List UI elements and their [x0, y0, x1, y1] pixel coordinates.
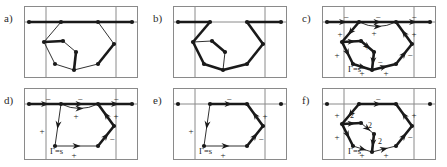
weight-label: 2 — [378, 137, 382, 146]
panel-b — [173, 6, 287, 78]
vertex-dot-v-bot-right — [394, 62, 398, 66]
sign-label: + — [113, 111, 118, 121]
vertex-dot-v-left-end — [27, 102, 31, 106]
sign-label: + — [383, 68, 388, 78]
vertex-dot-v-right-end — [428, 20, 432, 24]
graph-edges — [29, 22, 132, 70]
vertex-dot-v-inner-mid — [372, 50, 376, 54]
edge-v-inner-mid-to-v-bot-mid — [223, 52, 225, 70]
edge-v-mid-left-to-v-inner-left — [193, 41, 212, 42]
vertex-dot-v-inner-left — [210, 39, 214, 43]
vertex-dot-v-top-left — [59, 102, 63, 106]
edge-v-mid-left-to-v-inner-left — [44, 41, 63, 42]
panel-label-c: c) — [302, 12, 311, 24]
panel-label-e: e) — [153, 94, 162, 106]
vertex-dot-v-top-left — [59, 20, 63, 24]
sign-label: + — [334, 110, 339, 120]
vertex-dot-v-bot-right — [245, 144, 249, 148]
vertex-dot-v-mid-right — [261, 42, 265, 46]
vertex-dot-v-left-end — [325, 20, 329, 24]
sign-label: − — [77, 94, 82, 104]
sign-label: − — [226, 94, 231, 104]
edge-v-bot-left-to-v-bot-mid — [204, 64, 223, 70]
panel-f: −+++−++222Γ=s — [322, 88, 436, 160]
sign-label: − — [407, 50, 412, 60]
panel-c: −−−+++++−−++Γ=s — [322, 6, 436, 78]
sign-label: + — [334, 132, 339, 142]
sign-label: + — [411, 29, 416, 39]
sign-label: − — [45, 94, 50, 104]
vertex-dot-v-left-end — [325, 102, 329, 106]
edge-v-inner-left-to-v-inner-mid — [212, 41, 225, 52]
sign-label: + — [371, 28, 376, 38]
weight-label: 2 — [350, 111, 354, 120]
vertex-dot-v-bot-mid — [370, 150, 374, 154]
sign-label: + — [337, 29, 342, 39]
vertex-dot-v-right-end — [130, 102, 134, 106]
panel-label-d: d) — [4, 94, 13, 106]
vertex-dot-v-mid-right — [410, 124, 414, 128]
sign-label: + — [39, 126, 44, 136]
vertex-dot-v-inner-mid — [74, 50, 78, 54]
edge-v-mid-right-to-v-top-right — [247, 22, 263, 44]
edge-v-inner-left-to-v-inner-mid — [63, 41, 76, 52]
vertex-dot-v-inner-left — [359, 39, 363, 43]
graph-vertices — [176, 20, 283, 72]
edge-v-bot-left-to-v-bot-mid — [55, 64, 74, 70]
vertex-dot-v-mid-left — [340, 40, 344, 44]
vertex-dot-v-mid-left — [42, 40, 46, 44]
edge-v-inner-mid-to-v-bot-mid — [74, 52, 76, 70]
vertex-dot-v-bot-right — [96, 144, 100, 148]
sign-label: + — [383, 150, 388, 160]
vertex-dot-v-mid-right — [410, 42, 414, 46]
panel-label-b: b) — [153, 12, 162, 24]
sign-label: − — [377, 57, 382, 67]
sign-label: − — [375, 12, 380, 22]
vertex-dot-v-top-right — [96, 102, 100, 106]
gamma-label: Γ=s — [348, 146, 361, 156]
graph-edges — [203, 101, 263, 149]
sign-label: + — [364, 42, 369, 52]
vertex-dot-v-inner-mid — [372, 132, 376, 136]
gamma-label: Γ=s — [348, 64, 361, 74]
weight-label: 2 — [368, 121, 372, 130]
sign-label: − — [113, 94, 118, 104]
vertex-dot-v-top-left — [357, 102, 361, 106]
vertex-dot-v-bot-right — [394, 144, 398, 148]
graph-vertices — [27, 20, 134, 72]
sign-label: − — [375, 94, 380, 104]
vertex-dot-v-inner-left — [359, 121, 363, 125]
vertex-dot-v-mid-right — [112, 124, 116, 128]
vertex-dot-v-bot-left — [202, 62, 206, 66]
edge-v-top-left-to-v-mid-left — [44, 22, 61, 42]
sign-label: + — [73, 111, 78, 121]
vertex-dot-v-right-end — [279, 102, 283, 106]
vertex-dot-v-top-right — [394, 102, 398, 106]
graph-edges — [178, 22, 281, 70]
vertex-dot-v-bot-left — [53, 62, 57, 66]
vertex-dot-v-top-right — [394, 20, 398, 24]
vertex-dot-v-right-end — [130, 20, 134, 24]
edge-v-bot-mid-to-v-bot-right — [74, 64, 98, 70]
edge-v-bot-mid-to-v-bot-right — [223, 64, 247, 70]
sign-label: − — [343, 12, 348, 22]
vertex-dot-v-mid-left — [340, 122, 344, 126]
gamma-label: Γ=s — [50, 146, 63, 156]
vertex-dot-v-top-right — [245, 102, 249, 106]
edge-v-top-left-to-v-mid-left — [193, 22, 210, 42]
edge-v-mid-right-to-v-top-right — [98, 22, 114, 44]
vertex-dot-v-right-end — [428, 102, 432, 106]
vertex-dot-v-inner-left — [61, 39, 65, 43]
vertex-dot-v-left-end — [176, 20, 180, 24]
vertex-dot-v-mid-right — [112, 42, 116, 46]
vertex-dot-v-bot-mid — [221, 68, 225, 72]
vertex-dot-v-top-left — [357, 20, 361, 24]
sign-label: − — [109, 134, 114, 144]
gamma-label: Γ=s — [199, 146, 212, 156]
sign-label: − — [411, 12, 416, 22]
panel-label-a: a) — [4, 12, 13, 24]
panel-e: −++−+Γ=s — [173, 88, 287, 160]
vertex-dot-v-top-left — [208, 102, 212, 106]
panel-a — [24, 6, 138, 78]
sign-label: + — [334, 50, 339, 60]
